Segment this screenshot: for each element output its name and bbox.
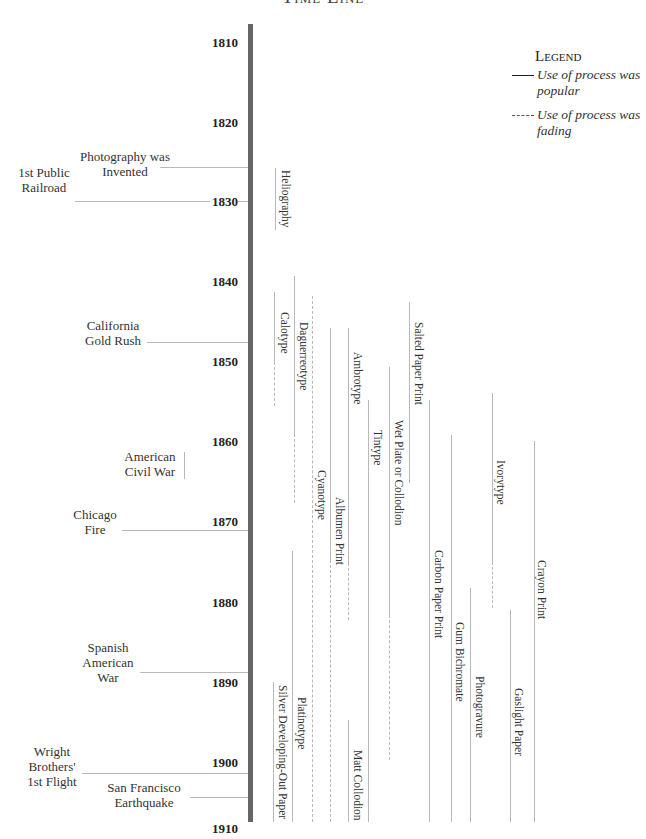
process-line-matt-collodion <box>348 720 349 822</box>
process-line-platinotype <box>292 551 293 822</box>
event-spanish-american-war: Spanish American War <box>80 640 136 685</box>
event-span-line <box>184 452 185 479</box>
process-label-ambrotype: Ambrotype <box>352 352 364 404</box>
event-first-railroad: 1st Public Railroad <box>14 165 74 195</box>
process-line-albumen <box>330 328 331 560</box>
solid-line-swatch <box>512 75 534 76</box>
process-label-wet-plate: Wet Plate or Collodion <box>393 420 405 525</box>
event-line <box>147 342 248 343</box>
year-label: 1860 <box>190 435 238 449</box>
legend-label: Use of process was popular <box>537 67 646 99</box>
event-line <box>82 773 248 774</box>
process-fading-wet-plate <box>389 615 390 760</box>
event-sf-earthquake: San Francisco Earthquake <box>104 780 184 810</box>
event-line <box>140 672 248 673</box>
legend-title: Legend <box>535 48 646 65</box>
year-label: 1830 <box>190 195 238 209</box>
process-line-photogravure <box>470 588 471 822</box>
process-label-ivorytype: Ivorytype <box>495 460 507 505</box>
process-line-gaslight <box>510 610 511 822</box>
process-fading-ambrotype <box>348 563 349 620</box>
page-title: Time Line <box>0 0 646 8</box>
event-line <box>160 167 248 168</box>
year-label: 1850 <box>190 355 238 369</box>
process-label-daguerreotype: Daguerreotype <box>298 322 310 390</box>
process-line-salted-paper <box>409 302 410 483</box>
legend-label: Use of process was fading <box>537 107 646 139</box>
process-label-cyanotype: Cyanotype <box>316 470 328 520</box>
event-gold-rush: California Gold Rush <box>78 318 148 348</box>
process-fading-cyanotype <box>312 296 313 822</box>
process-line-carbon-paper <box>429 400 430 822</box>
process-label-silver-dop: Silver Developing-Out Paper <box>277 685 289 819</box>
process-fading-calotype <box>274 362 275 406</box>
legend: Legend Use of process was popular Use of… <box>512 48 646 139</box>
legend-item-popular: Use of process was popular <box>535 67 646 99</box>
process-line-heliography <box>275 168 276 230</box>
process-fading-albumen <box>330 560 331 822</box>
process-line-gum-bichromate <box>451 435 452 822</box>
process-label-platinotype: Platinotype <box>296 697 308 749</box>
year-label: 1870 <box>190 515 238 529</box>
process-line-daguerreotype <box>294 276 295 434</box>
year-label: 1890 <box>190 676 238 690</box>
process-line-silver-dop <box>273 682 274 822</box>
process-label-matt-collodion: Matt Collodion <box>352 750 364 821</box>
process-line-crayon <box>534 441 535 822</box>
process-label-salted-paper: Salted Paper Print <box>413 322 425 405</box>
process-line-wet-plate <box>389 367 390 615</box>
process-label-heliography: Heliography <box>280 170 292 227</box>
year-label: 1810 <box>190 36 238 50</box>
process-line-ambrotype <box>348 328 349 563</box>
process-label-crayon: Crayon Print <box>536 560 548 619</box>
process-line-ivorytype <box>492 393 493 562</box>
event-line <box>238 201 248 202</box>
process-label-albumen: Albumen Print <box>334 497 346 565</box>
year-label: 1910 <box>190 822 238 836</box>
event-chicago-fire: Chicago Fire <box>70 507 120 537</box>
process-label-gaslight: Gaslight Paper <box>513 688 525 756</box>
event-line <box>122 530 248 531</box>
event-civil-war: American Civil War <box>120 449 180 479</box>
year-label: 1900 <box>190 756 238 770</box>
process-fading-daguerreotype <box>294 434 295 503</box>
event-line <box>190 797 248 798</box>
process-line-calotype <box>274 292 275 362</box>
process-label-photogravure: Photogravure <box>474 676 486 738</box>
event-line <box>75 201 210 202</box>
process-fading-ivorytype <box>492 562 493 608</box>
year-label: 1880 <box>190 596 238 610</box>
timeline-axis <box>248 24 253 822</box>
process-label-carbon-paper: Carbon Paper Print <box>433 550 445 638</box>
process-line-tintype <box>368 400 369 822</box>
year-label: 1840 <box>190 275 238 289</box>
legend-item-fading: Use of process was fading <box>535 107 646 139</box>
process-label-gum-bichromate: Gum Bichromate <box>454 622 466 702</box>
event-wright-brothers: Wright Brothers' 1st Flight <box>22 744 82 789</box>
process-label-calotype: Calotype <box>279 312 291 354</box>
event-photography-invented: Photography was Invented <box>80 149 170 179</box>
process-label-tintype: Tintype <box>372 430 384 465</box>
dashed-line-swatch <box>512 115 534 116</box>
year-label: 1820 <box>190 116 238 130</box>
